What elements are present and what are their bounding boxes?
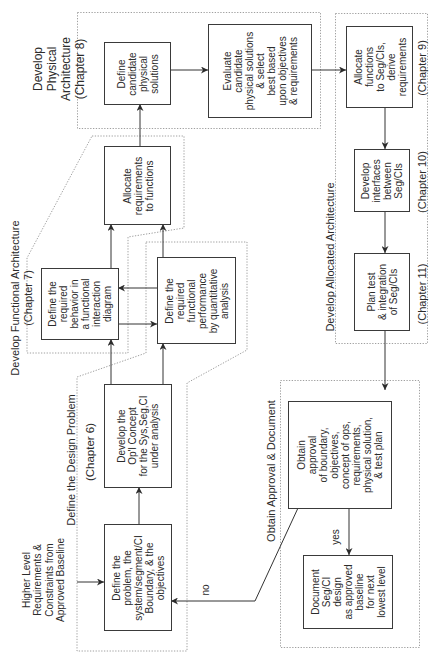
box-allocate-functions: Allocate functions to Seg/CIs, derive re… [346, 26, 413, 108]
edge-label-yes: yes [330, 529, 341, 545]
region-label-physical-architecture: Develop Physical Architecture (Chapter 8… [31, 37, 87, 101]
input-note-higher-level-requirements: Higher Level Requirements & Constraints … [21, 538, 66, 622]
box-develop-opl-concept: Develop the Op'l Concept for the Sys,Seg… [104, 384, 172, 488]
box-text: Develop the Op'l Concept for the Sys,Seg… [116, 395, 160, 476]
box-obtain-approval: Obtain approval of boundary, objectives,… [288, 401, 392, 509]
arrow-approval-no-to-define-problem [171, 508, 298, 601]
box-text: Obtain approval of boundary, objectives,… [296, 417, 384, 493]
box-define-candidate-solutions: Define candidate physical solutions [104, 42, 171, 105]
box-define-required-behavior: Define the required behavior in a functi… [41, 268, 119, 340]
chapter-10-label: (Chapter 10) [416, 151, 429, 213]
box-text: Evaluate candidate physical solutions & … [222, 32, 299, 110]
box-text: Define candidate physical solutions [116, 52, 160, 95]
region-label-approval: Obtain Approval & Document [265, 400, 278, 542]
box-text: Define the problem, the system/segment/C… [111, 535, 166, 621]
chapter-9-label: (Chapter 9) [416, 40, 429, 96]
region-label-functional-architecture: Develop Functional Architecture (Chapter… [9, 220, 34, 375]
box-define-required-performance: Define the required functional performan… [157, 257, 236, 344]
box-text: Plan test & integration of Seg/CIs [366, 264, 399, 320]
box-evaluate-candidate-solutions: Evaluate candidate physical solutions & … [208, 24, 312, 118]
systems-engineering-process-diagram: Develop Physical Architecture (Chapter 8… [0, 0, 440, 658]
box-text: Define the required behavior in a functi… [47, 278, 113, 329]
box-text: Define the required functional performan… [164, 268, 230, 333]
box-text: Allocate functions to Seg/CIs, derive re… [352, 38, 407, 96]
box-text: Develop interfaces between Seg/CIs [360, 159, 404, 202]
box-text: Document Seg/CI design as approved basel… [310, 564, 387, 619]
box-text: Allocate requirements to functions [121, 156, 154, 214]
chapter-11-label: (Chapter 11) [416, 264, 429, 325]
box-document-design: Document Seg/CI design as approved basel… [303, 555, 393, 629]
box-allocate-requirements: Allocate requirements to functions [104, 146, 171, 225]
box-develop-interfaces: Develop interfaces between Seg/CIs [354, 149, 410, 212]
box-plan-test-integration: Plan test & integration of Seg/CIs [354, 253, 410, 331]
box-define-problem: Define the problem, the system/segment/C… [104, 524, 172, 631]
region-label-design-problem: Define the Design Problem [65, 394, 78, 525]
region-label-allocated-architecture: Develop Allocated Architecture [324, 182, 337, 331]
chapter-6-label: (Chapter 6) [84, 423, 97, 481]
edge-label-no: no [200, 584, 211, 595]
